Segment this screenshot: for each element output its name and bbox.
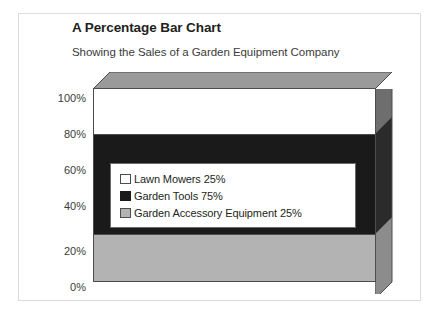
legend-swatch-garden-tools xyxy=(120,191,131,201)
y-tick-label-100: 100% xyxy=(34,92,86,104)
legend-swatch-lawn-mowers xyxy=(120,174,131,184)
chart-title: A Percentage Bar Chart xyxy=(72,20,221,35)
bar-segment-lawn-mowers xyxy=(93,88,376,135)
chart-legend: Lawn Mowers 25% Garden Tools 75% Garden … xyxy=(110,163,356,228)
y-tick-label-80: 80% xyxy=(34,128,86,140)
legend-label-lawn-mowers: Lawn Mowers 25% xyxy=(134,173,225,185)
bar-side-faces xyxy=(375,89,393,294)
legend-item-garden-accessory: Garden Accessory Equipment 25% xyxy=(120,204,347,221)
y-tick-label-20: 20% xyxy=(34,245,86,257)
bar-segment-garden-accessory xyxy=(93,234,376,282)
y-axis: 100% 80% 60% 40% 20% 0% xyxy=(0,0,90,318)
y-tick-label-40: 40% xyxy=(34,200,86,212)
legend-swatch-garden-accessory xyxy=(120,208,131,218)
y-tick-label-0: 0% xyxy=(34,281,86,293)
chart-subtitle: Showing the Sales of a Garden Equipment … xyxy=(72,46,339,58)
bar-top-face xyxy=(93,72,393,89)
legend-item-garden-tools: Garden Tools 75% xyxy=(120,187,347,204)
legend-label-garden-tools: Garden Tools 75% xyxy=(134,190,223,202)
chart-screenshot: A Percentage Bar Chart Showing the Sales… xyxy=(0,0,439,318)
y-tick-label-60: 60% xyxy=(34,164,86,176)
legend-item-lawn-mowers: Lawn Mowers 25% xyxy=(120,170,347,187)
legend-label-garden-accessory: Garden Accessory Equipment 25% xyxy=(134,207,302,219)
